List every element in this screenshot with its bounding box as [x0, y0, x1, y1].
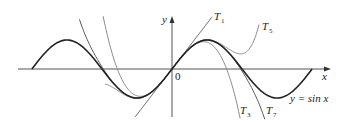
t7-label: T 7 — [266, 104, 277, 119]
origin-label: 0 — [175, 70, 181, 82]
t1-label: T 1 — [214, 10, 225, 25]
svg-text:1: 1 — [221, 17, 225, 25]
t5-label: T 5 — [262, 20, 273, 35]
t3-label: T 3 — [240, 104, 251, 119]
x-axis-label: x — [321, 70, 327, 82]
svg-text:3: 3 — [247, 111, 251, 119]
svg-text:7: 7 — [273, 111, 277, 119]
y-axis-label: y — [161, 13, 167, 25]
svg-text:T: T — [262, 20, 269, 32]
svg-text:5: 5 — [269, 27, 273, 35]
taylor-polynomials-figure: x y 0 T 1 T 5 T 3 T 7 y = sin x — [0, 0, 345, 123]
svg-text:T: T — [240, 104, 247, 116]
svg-text:T: T — [266, 104, 273, 116]
svg-text:T: T — [214, 10, 221, 22]
sin-curve-label: y = sin x — [289, 92, 328, 104]
y-axis-arrow-icon — [170, 16, 175, 23]
